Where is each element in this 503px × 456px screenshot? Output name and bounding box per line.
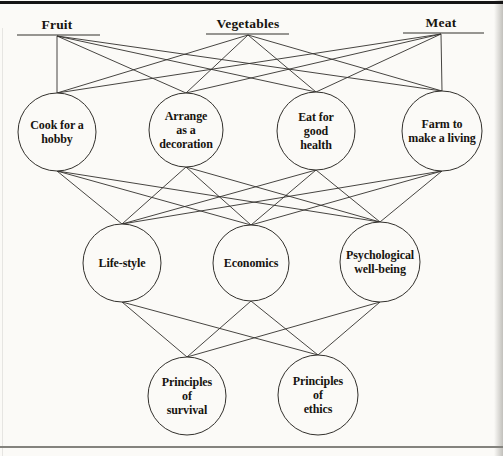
node-cook-for-a-hobby: Cook for a hobby [18, 93, 96, 171]
bottom-border-rule [0, 446, 503, 448]
node-psychological-well-being: Psychological well-being [340, 222, 420, 302]
scanned-figure-page: Fruit Vegetables Meat Cook for a hobby A… [0, 0, 503, 456]
node-eat-for-good-health: Eat for good health [277, 92, 355, 170]
node-economics: Economics [213, 225, 289, 301]
category-label-vegetables: Vegetables [217, 16, 280, 32]
top-border-rule [0, 1, 503, 4]
node-farm-to-make-a-living: Farm to make a living [402, 91, 482, 171]
node-life-style: Life-style [83, 224, 161, 302]
category-label-fruit: Fruit [42, 17, 73, 33]
node-arrange-as-a-decoration: Arrange as a decoration [149, 93, 223, 167]
node-principles-of-ethics: Principles of ethics [278, 355, 358, 435]
page-edge-faint-line [2, 28, 3, 456]
node-principles-of-survival: Principles of survival [148, 357, 226, 435]
category-label-meat: Meat [426, 15, 457, 31]
page-edge-shading [494, 0, 503, 456]
diagram-labels: Fruit Vegetables Meat Cook for a hobby A… [0, 0, 503, 456]
